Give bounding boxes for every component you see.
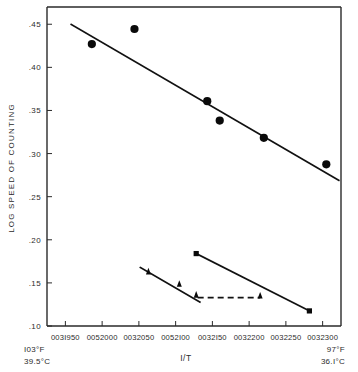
x-tick-label: 0052000 (87, 333, 118, 342)
y-axis-title: LOG SPEED OF COUNTING (7, 103, 16, 233)
data-point-circle (88, 40, 96, 48)
data-point-circle (203, 97, 211, 105)
data-point-circle (322, 160, 330, 168)
right-temp-fahrenheit: 97°F (327, 345, 345, 354)
chart-svg: .45.40.35.30.25.20.15.10 003I95000520000… (0, 0, 358, 372)
data-point-square (307, 308, 312, 313)
chart-figure: .45.40.35.30.25.20.15.10 003I95000520000… (0, 0, 358, 372)
y-tick-label: .30 (29, 150, 41, 159)
y-tick-label: .15 (29, 279, 41, 288)
x-tick-label: 0032I50 (198, 333, 227, 342)
x-tick-label: 0032250 (270, 333, 301, 342)
x-tick-label: 0052I00 (161, 333, 190, 342)
x-axis-title: I/T (180, 353, 192, 363)
y-tick-label: .10 (29, 322, 41, 331)
data-point-circle (260, 134, 268, 142)
data-point-circle (130, 25, 138, 33)
x-tick-label: 003I950 (51, 333, 80, 342)
y-tick-label: .20 (29, 236, 41, 245)
y-tick-label: .35 (29, 106, 41, 115)
y-tick-label: .25 (29, 193, 41, 202)
y-tick-label: .45 (29, 20, 41, 29)
data-point-square (194, 251, 199, 256)
x-tick-label: 0032300 (307, 333, 338, 342)
right-temp-celsius: 36.I°C (321, 357, 345, 366)
left-temp-celsius: 39.5°C (24, 357, 50, 366)
y-tick-label: .40 (29, 63, 41, 72)
x-tick-label: 0032200 (234, 333, 265, 342)
data-point-circle (216, 116, 224, 124)
x-tick-label: 0032050 (123, 333, 154, 342)
chart-background (0, 0, 358, 372)
left-temp-fahrenheit: I03°F (24, 345, 45, 354)
